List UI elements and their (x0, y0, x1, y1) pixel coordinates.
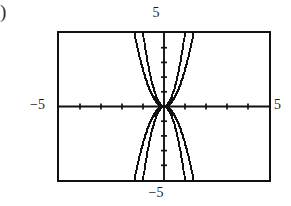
plot-canvas (59, 33, 269, 180)
part-label: ) (0, 2, 6, 21)
y-axis-min-label: −5 (149, 186, 164, 200)
x-axis-max-label: 5 (274, 98, 281, 112)
plot-frame (57, 31, 271, 182)
y-axis-max-label: 5 (153, 6, 160, 20)
x-axis-min-label: −5 (30, 98, 45, 112)
graph-figure: ) 5 −5 5 −5 (0, 0, 291, 206)
